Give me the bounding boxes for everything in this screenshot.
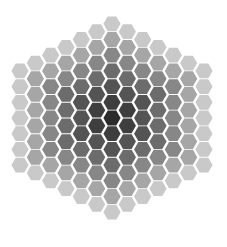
hex-cell[interactable] [88,134,105,149]
hex-cell[interactable] [73,48,90,63]
hex-cell[interactable] [88,71,105,86]
hex-cell[interactable] [180,134,197,149]
hex-cell[interactable] [119,197,136,212]
hex-cell[interactable] [73,111,90,126]
hex-cell[interactable] [119,181,136,196]
hex-cell[interactable] [165,48,182,63]
hex-cell[interactable] [42,48,59,63]
hex-cell[interactable] [57,103,74,118]
hex-cell[interactable] [73,64,90,79]
hex-cell[interactable] [57,134,74,149]
hex-cell[interactable] [88,40,105,55]
hex-cell[interactable] [57,166,74,181]
hex-cell[interactable] [57,87,74,102]
hex-cell[interactable] [180,56,197,71]
hex-cell[interactable] [57,150,74,165]
hex-cell[interactable] [180,87,197,102]
hex-cell[interactable] [73,32,90,47]
hex-cell[interactable] [195,142,212,157]
hex-cell[interactable] [88,118,105,133]
hex-cell[interactable] [134,95,151,110]
hex-cell[interactable] [165,126,182,141]
hex-cell[interactable] [165,142,182,157]
hex-cell[interactable] [149,134,166,149]
hex-cell[interactable] [27,71,44,86]
hex-cell[interactable] [119,71,136,86]
hex-cell[interactable] [103,111,120,126]
hex-cell[interactable] [134,32,151,47]
hex-cell[interactable] [57,40,74,55]
hex-cell[interactable] [103,79,120,94]
hex-cell[interactable] [27,87,44,102]
hex-cell[interactable] [73,79,90,94]
hex-cell[interactable] [134,173,151,188]
hex-cell[interactable] [11,64,28,79]
hex-cell[interactable] [42,111,59,126]
hex-cell[interactable] [149,181,166,196]
hex-cell[interactable] [119,87,136,102]
hex-cell[interactable] [88,197,105,212]
hex-cell[interactable] [149,166,166,181]
hex-cell[interactable] [149,56,166,71]
hex-cell[interactable] [165,111,182,126]
hex-cell[interactable] [11,111,28,126]
hex-cell[interactable] [165,79,182,94]
hex-cell[interactable] [57,71,74,86]
hex-cell[interactable] [165,158,182,173]
hex-cell[interactable] [27,118,44,133]
hex-cell[interactable] [195,111,212,126]
hex-cell[interactable] [195,95,212,110]
hex-cell[interactable] [180,166,197,181]
hex-cell[interactable] [57,56,74,71]
hex-cell[interactable] [103,126,120,141]
hex-cell[interactable] [88,181,105,196]
hex-cell[interactable] [180,118,197,133]
hex-cell[interactable] [119,103,136,118]
hex-cell[interactable] [119,56,136,71]
hex-cell[interactable] [103,142,120,157]
hex-cell[interactable] [119,134,136,149]
hex-cell[interactable] [134,189,151,204]
hex-cell[interactable] [73,95,90,110]
hex-cell[interactable] [27,150,44,165]
hex-cell[interactable] [134,142,151,157]
hex-cell[interactable] [134,111,151,126]
hex-cell[interactable] [134,48,151,63]
hex-cell[interactable] [42,64,59,79]
hex-cell[interactable] [88,56,105,71]
hex-cell[interactable] [180,103,197,118]
hex-cell[interactable] [11,142,28,157]
hex-cell[interactable] [88,150,105,165]
hex-cell[interactable] [134,158,151,173]
hex-cell[interactable] [119,24,136,39]
hex-cell[interactable] [73,126,90,141]
hex-cell[interactable] [165,173,182,188]
hex-cell[interactable] [42,173,59,188]
hex-cell[interactable] [88,24,105,39]
hex-cell[interactable] [149,40,166,55]
hex-cell[interactable] [149,87,166,102]
hex-cell[interactable] [195,158,212,173]
hex-cell[interactable] [103,158,120,173]
hex-cell[interactable] [88,166,105,181]
hex-cell[interactable] [27,166,44,181]
hex-cell[interactable] [27,103,44,118]
hex-cell[interactable] [103,173,120,188]
hex-cell[interactable] [103,205,120,220]
hex-cell[interactable] [88,87,105,102]
hex-cell[interactable] [195,64,212,79]
hex-cell[interactable] [103,64,120,79]
hex-cell[interactable] [149,71,166,86]
hex-cell[interactable] [27,134,44,149]
hex-cell[interactable] [165,95,182,110]
hex-cell[interactable] [119,150,136,165]
hex-cell[interactable] [103,32,120,47]
hex-cell[interactable] [134,126,151,141]
hex-cell[interactable] [134,64,151,79]
hex-cell[interactable] [134,79,151,94]
hex-cell[interactable] [103,16,120,31]
hex-cell[interactable] [11,158,28,173]
hex-cell[interactable] [195,79,212,94]
hex-cell[interactable] [119,118,136,133]
hex-cell[interactable] [149,150,166,165]
